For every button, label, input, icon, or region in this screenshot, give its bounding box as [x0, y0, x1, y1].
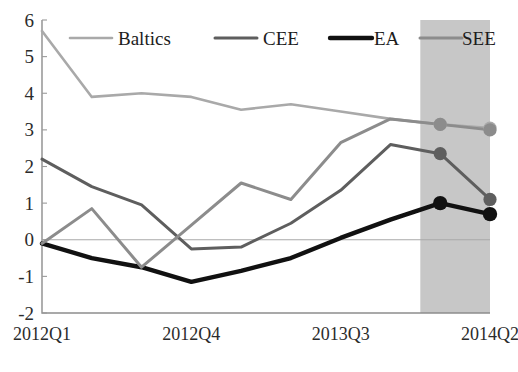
legend-label-ea: EA: [374, 28, 400, 49]
y-tick-label: 0: [25, 229, 35, 250]
y-tick-label: 1: [25, 193, 35, 214]
legend-label-cee: CEE: [263, 28, 299, 49]
y-tick-label: -1: [18, 266, 34, 287]
legend-label-baltics: Baltics: [118, 28, 171, 49]
data-point-marker-see: [434, 118, 447, 131]
line-chart: 6543210-1-2 2012Q12012Q42013Q32014Q2 Bal…: [0, 0, 518, 372]
y-tick-marks: [42, 20, 47, 313]
data-point-marker-cee: [434, 147, 447, 160]
x-tick-label: 2012Q4: [162, 324, 220, 344]
y-axis-tick-labels: 6543210-1-2: [18, 10, 34, 324]
data-point-marker-see: [483, 123, 496, 136]
chart-container: 6543210-1-2 2012Q12012Q42013Q32014Q2 Bal…: [0, 0, 518, 372]
y-tick-label: 5: [25, 46, 35, 67]
data-point-marker-cee: [483, 193, 496, 206]
x-tick-label: 2014Q2: [461, 324, 518, 344]
x-tick-label: 2012Q1: [13, 324, 71, 344]
data-point-marker-ea: [433, 196, 447, 210]
x-axis-tick-labels: 2012Q12012Q42013Q32014Q2: [13, 324, 518, 344]
y-tick-label: 6: [25, 10, 35, 31]
y-tick-label: 4: [25, 83, 35, 104]
y-tick-label: 2: [25, 156, 35, 177]
y-tick-label: 3: [25, 119, 35, 140]
y-tick-label: -2: [18, 303, 34, 324]
legend-label-see: SEE: [462, 28, 496, 49]
data-point-marker-ea: [483, 207, 497, 221]
x-tick-label: 2013Q3: [312, 324, 370, 344]
